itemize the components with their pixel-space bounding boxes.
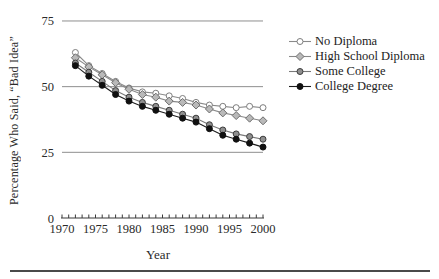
legend-item-high-school-diploma: High School Diploma <box>289 50 425 62</box>
legend-item-college-degree: College Degree <box>289 80 425 92</box>
marker-filled-circle <box>180 115 186 121</box>
marker-diamond <box>165 97 173 105</box>
marker-filled-circle <box>260 144 266 150</box>
x-tick-label-1985: 1985 <box>150 222 175 236</box>
chart-legend: No DiplomaHigh School DiplomaSome Colleg… <box>289 35 425 92</box>
legend-label: No Diploma <box>315 35 377 47</box>
x-tick-label-1980: 1980 <box>117 222 142 236</box>
y-tick-label-50: 50 <box>42 80 55 94</box>
x-tick-label-2000: 2000 <box>251 222 276 236</box>
marker-filled-circle <box>206 126 212 132</box>
marker-filled-circle <box>247 134 253 140</box>
legend-label: High School Diploma <box>315 50 425 62</box>
marker-filled-circle <box>99 82 105 88</box>
marker-filled-circle <box>113 92 119 98</box>
x-tick-label-1975: 1975 <box>83 222 108 236</box>
marker-diamond <box>246 114 254 122</box>
x-tick-label-1995: 1995 <box>217 222 242 236</box>
y-axis-title: Percentage Who Said, “Bad Idea” <box>6 26 22 216</box>
marker-diamond <box>232 112 240 120</box>
marker-diamond <box>219 109 227 117</box>
marker-open-circle <box>260 105 266 111</box>
marker-filled-circle <box>233 136 239 142</box>
y-tick-label-75: 75 <box>42 14 55 28</box>
marker-filled-circle <box>139 103 145 109</box>
marker-open-circle <box>247 103 253 109</box>
marker-filled-circle <box>153 107 159 113</box>
x-tick-label-1990: 1990 <box>184 222 209 236</box>
marker-filled-circle <box>86 73 92 79</box>
x-tick-label-1970: 1970 <box>50 222 75 236</box>
marker-filled-circle <box>126 98 132 104</box>
legend-label: Some College <box>315 65 385 77</box>
figure-canvas: 02550751970197519801985199019952000 Perc… <box>0 0 439 279</box>
legend-item-some-college: Some College <box>289 65 425 77</box>
x-axis-title: Year <box>118 247 198 263</box>
marker-open-circle <box>233 105 239 111</box>
marker-filled-circle <box>166 111 172 117</box>
y-tick-label-25: 25 <box>42 146 55 160</box>
marker-filled-circle <box>193 119 199 125</box>
legend-marker-filled-circle-icon <box>289 66 311 77</box>
legend-marker-filled-circle-icon <box>289 81 311 92</box>
marker-filled-circle <box>260 136 266 142</box>
legend-marker-diamond-icon <box>289 51 311 62</box>
legend-marker-open-circle-icon <box>289 36 311 47</box>
marker-filled-circle <box>220 132 226 138</box>
legend-label: College Degree <box>315 80 393 92</box>
marker-diamond <box>259 117 267 125</box>
bottom-divider-rule <box>10 270 430 272</box>
legend-item-no-diploma: No Diploma <box>289 35 425 47</box>
marker-filled-circle <box>247 140 253 146</box>
marker-filled-circle <box>72 63 78 69</box>
